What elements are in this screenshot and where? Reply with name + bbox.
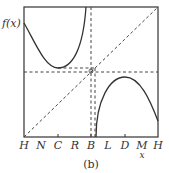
figure-caption: (b) bbox=[83, 158, 99, 171]
y-axis-label: f(x) bbox=[1, 17, 21, 30]
x-tick-label: N bbox=[35, 139, 46, 152]
right-curve-branch bbox=[96, 77, 158, 137]
x-tick-label: H bbox=[18, 139, 29, 152]
x-axis-label: x bbox=[139, 150, 144, 160]
x-tick-label: L bbox=[103, 139, 111, 152]
diagram-figure: f(x) H N C R B L D M H x (b) bbox=[0, 0, 169, 173]
x-tick-label: C bbox=[54, 139, 63, 152]
left-curve-branch bbox=[24, 7, 86, 68]
x-tick-label: H bbox=[152, 139, 163, 152]
x-tick-label: R bbox=[70, 139, 79, 152]
x-tick-label: B bbox=[86, 139, 95, 152]
x-tick-label: D bbox=[120, 139, 130, 152]
